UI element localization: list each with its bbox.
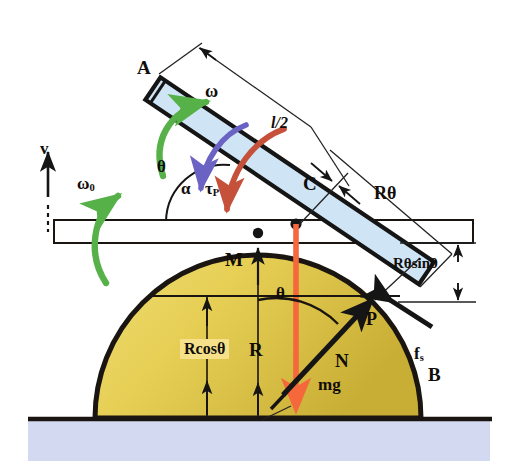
label-angle-upper: θ	[157, 158, 166, 175]
label-velocity: v	[40, 140, 49, 157]
torque-base: τ	[205, 179, 213, 198]
upper-angle-arc	[166, 165, 230, 221]
physics-diagram-canvas: A B ω ω0 v θ α τP l/2 C Rθ Rθsinθ M θ Rc…	[0, 0, 518, 475]
ground-fill	[28, 421, 490, 461]
label-omega: ω	[205, 82, 218, 100]
label-vertical-drop: Rθsinθ	[393, 256, 438, 271]
label-half-length: l/2	[271, 115, 288, 131]
label-alpha: α	[181, 180, 191, 197]
horizontal-bar	[54, 220, 473, 243]
omega-zero-base: ω	[77, 174, 89, 193]
label-angle-lower: θ	[276, 285, 285, 302]
label-weight: mg	[318, 376, 341, 393]
friction-force-arrow	[390, 300, 432, 327]
label-point-p: P	[366, 310, 377, 328]
label-rod-end-b: B	[428, 365, 441, 384]
bar-center-dot	[253, 228, 263, 238]
label-radius: R	[249, 340, 263, 359]
label-height: Rcosθ	[180, 341, 229, 357]
label-torque: τP	[205, 180, 219, 199]
label-omega-zero: ω0	[77, 175, 95, 194]
torque-subscript: P	[213, 187, 219, 198]
diagram-svg	[0, 0, 518, 475]
upper-angle-group	[166, 165, 230, 221]
ground-group	[28, 419, 492, 461]
label-friction-force: fs	[414, 345, 424, 364]
height-text: Rcosθ	[180, 339, 229, 359]
label-arc-length: Rθ	[374, 184, 396, 202]
half-length-extension-a	[159, 43, 202, 74]
friction-subscript: s	[420, 352, 424, 363]
omega-zero-subscript: 0	[89, 182, 94, 193]
label-dome-apex-m: M	[225, 250, 243, 269]
label-contact-point-c: C	[303, 174, 317, 193]
half-length-arrowhead	[200, 48, 216, 60]
horizontal-bar-group	[54, 220, 473, 243]
label-rod-end-a: A	[137, 58, 151, 77]
label-normal-force: N	[335, 351, 349, 370]
